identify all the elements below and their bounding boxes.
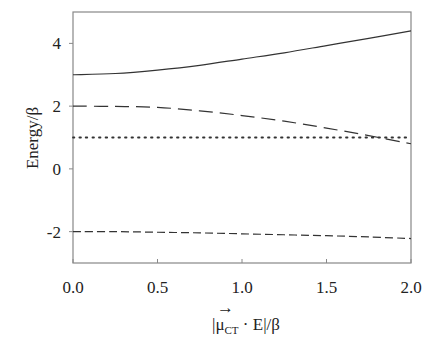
x-label-div: /β: [267, 315, 280, 334]
series-line-upper-state: [73, 31, 411, 75]
y-tick-label: 4: [53, 34, 62, 53]
x-label-sub: CT: [225, 324, 239, 336]
x-axis-label: |μCT · E|/β →: [212, 298, 280, 336]
x-label-mu: μ: [215, 315, 224, 334]
x-label-vector-arrow: →: [217, 298, 234, 317]
x-tick-label: 1.0: [231, 278, 252, 297]
svg-text:|μCT · E|/β: |μCT · E|/β: [212, 315, 280, 336]
series-line-lower-state: [73, 232, 411, 239]
energy-chart: 0.00.51.01.52.0 -2024 Energy/β |μCT · E|…: [0, 0, 442, 358]
x-label-dot-e: · E: [239, 315, 264, 334]
x-axis: 0.00.51.01.52.0: [62, 259, 421, 297]
y-tick-label: -2: [47, 223, 61, 242]
series-group: [73, 31, 411, 239]
x-tick-label: 0.0: [62, 278, 83, 297]
x-tick-label: 1.5: [316, 278, 337, 297]
x-tick-label: 0.5: [147, 278, 168, 297]
y-axis-label: Energy/β: [23, 107, 42, 169]
x-tick-label: 2.0: [400, 278, 421, 297]
y-tick-label: 2: [53, 97, 62, 116]
y-tick-label: 0: [53, 160, 62, 179]
y-axis: -2024: [47, 34, 73, 241]
